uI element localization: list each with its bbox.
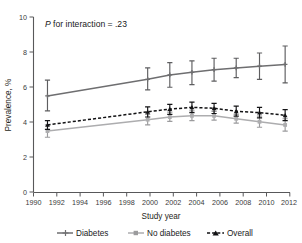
x-tick-label: 2012 [281,198,297,207]
y-tick-label: 2 [23,153,27,162]
y-tick-label: 0 [23,188,27,197]
x-tick-label: 2004 [189,198,205,207]
y-axis-title: Prevalence, % [4,79,13,132]
legend-label-overall: Overall [227,229,253,238]
y-tick-label: 10 [19,13,27,22]
y-tick-label: 4 [23,118,27,127]
x-tick-label: 1990 [26,198,42,207]
data-point-marker [258,120,262,124]
x-tick-label: 1998 [119,198,135,207]
data-point-marker [168,115,172,119]
chart-figure: 0 2 4 6 8 10 Prevalence, % [0,0,302,243]
legend-marker-no-diabetes [134,231,138,235]
legend-label-no-diabetes: No diabetes [147,229,191,238]
data-point-marker [190,114,194,118]
data-point-marker [212,114,216,118]
data-point-marker [234,117,238,121]
x-tick-label: 1996 [95,198,111,207]
prevalence-line-chart: 0 2 4 6 8 10 Prevalence, % [0,0,302,243]
legend-label-diabetes: Diabetes [76,229,108,238]
x-tick-label: 1992 [49,198,65,207]
x-tick-label: 2008 [235,198,251,207]
x-axis-title: Study year [141,212,180,221]
x-tick-label: 2010 [259,198,275,207]
x-tick-label: 2002 [165,198,181,207]
x-tick-label: 2006 [212,198,228,207]
x-tick-label: 2000 [142,198,158,207]
p-value-annotation: P for interaction = .23 [45,19,127,29]
y-tick-label: 6 [23,83,27,92]
data-point-marker [283,123,287,127]
data-point-marker [146,118,150,122]
x-tick-label: 1994 [72,198,88,207]
p-value-annotation-text: for interaction = .23 [51,19,127,29]
y-tick-label: 8 [23,48,27,57]
